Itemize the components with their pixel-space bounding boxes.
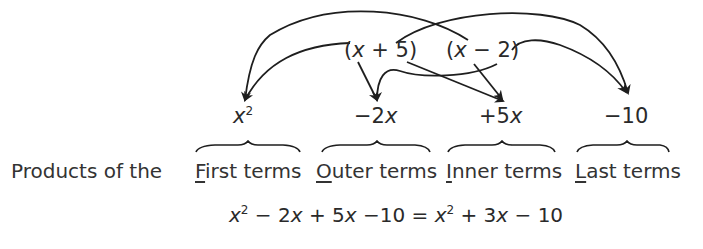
arrow-outer-a [358, 62, 377, 100]
product-outer: −2x [354, 104, 397, 128]
product-last: −10 [604, 104, 648, 128]
products-of-the-label: Products of the [11, 159, 162, 183]
label-first-terms: First terms [195, 159, 301, 183]
factor-x-plus-5: (x + 5) [344, 38, 417, 62]
arrow-inner-b [474, 64, 502, 99]
label-inner-terms: Inner terms [446, 159, 562, 183]
product-first: x2 [233, 104, 253, 128]
label-outer-terms: Outer terms [316, 159, 437, 183]
result-equation: x2 − 2x + 5x −10 = x2 + 3x − 10 [229, 203, 563, 227]
arrow-first-a [245, 43, 350, 100]
brace-last [577, 141, 669, 152]
brace-outer [322, 141, 430, 152]
brace-inner [448, 141, 555, 152]
arrow-last-b [512, 40, 626, 92]
label-last-terms: Last terms [575, 159, 681, 183]
brace-first [196, 141, 300, 152]
factor-x-minus-2: (x − 2) [446, 38, 519, 62]
product-inner: +5x [479, 104, 522, 128]
